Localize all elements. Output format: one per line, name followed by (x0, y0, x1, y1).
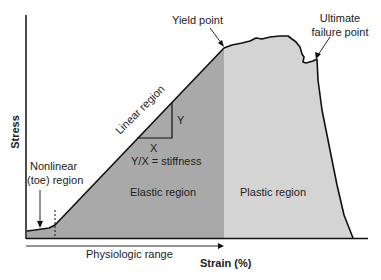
ultimate-failure-label-1: Ultimate (320, 12, 360, 24)
nonlinear-label-1: Nonlinear (30, 160, 77, 172)
nonlinear-arrowhead (37, 221, 43, 228)
nonlinear-label-2: (toe) region (27, 174, 83, 186)
plastic-region-label: Plastic region (240, 186, 306, 198)
elastic-region-fill (27, 48, 224, 238)
x-axis-label: Strain (%) (200, 257, 252, 269)
stiffness-label: Y/X = stiffness (131, 155, 202, 167)
physiologic-range-arrowhead (218, 243, 224, 249)
y-axis-label: Stress (9, 115, 21, 149)
elastic-region-label: Elastic region (130, 186, 196, 198)
triangle-y-label: Y (177, 114, 185, 126)
failure-arrowhead (315, 52, 321, 59)
yield-point-label: Yield point (172, 14, 223, 26)
plastic-region-fill (224, 36, 353, 238)
physiologic-range-label: Physiologic range (86, 248, 173, 260)
failure-arrow (318, 37, 330, 55)
triangle-x-label: X (150, 142, 158, 154)
yield-arrowhead (218, 40, 224, 47)
stress-strain-diagram: Stress Strain (%) Yield point Ultimate f… (0, 0, 381, 280)
ultimate-failure-label-2: failure point (312, 26, 369, 38)
